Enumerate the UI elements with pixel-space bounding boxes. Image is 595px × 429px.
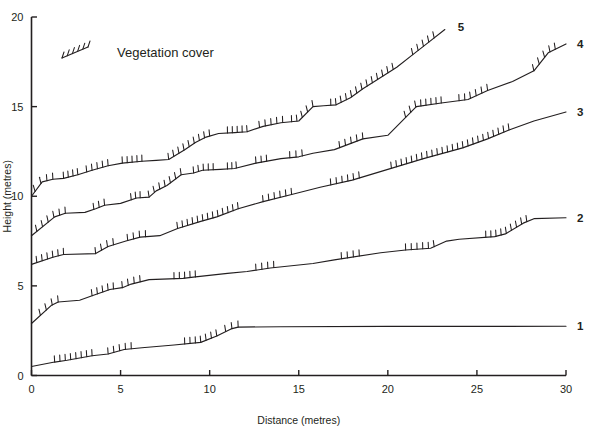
- x-axis-tick-label: 25: [471, 383, 483, 395]
- y-axis-tick-label: 5: [17, 280, 23, 292]
- vegetation-tick: [53, 211, 54, 217]
- series-label-1: 1: [577, 320, 584, 332]
- vegetation-tick: [46, 175, 47, 181]
- vegetation-tick: [457, 143, 458, 149]
- vegetation-tick: [345, 93, 346, 99]
- vegetation-tick: [498, 128, 499, 134]
- vegetation-tick: [33, 185, 35, 191]
- vegetation-tick: [526, 215, 527, 221]
- profile-5: 5: [32, 21, 465, 196]
- vegetation-tick: [433, 32, 434, 38]
- vegetation-tick: [472, 138, 473, 144]
- vegetation-tick: [211, 332, 212, 338]
- series-label-5: 5: [458, 21, 465, 33]
- vegetation-tick: [427, 151, 428, 157]
- legend-vegetation-tick: [88, 41, 90, 47]
- vegetation-tick: [131, 194, 132, 200]
- vegetation-tick: [107, 284, 108, 290]
- vegetation-tick: [135, 192, 136, 198]
- vegetation-tick: [432, 150, 433, 156]
- vegetation-tick: [263, 195, 264, 201]
- vegetation-tick: [280, 191, 281, 197]
- vegetation-tick: [187, 219, 188, 225]
- vegetation-tick: [508, 124, 509, 130]
- vegetation-tick: [198, 165, 199, 171]
- vegetation-tick: [36, 256, 37, 262]
- vegetation-tick: [339, 141, 340, 147]
- axis-titles: Distance (metres)Height (metres): [1, 160, 340, 426]
- profile-3: 3: [32, 106, 584, 264]
- vegetation-tick: [359, 172, 360, 178]
- vegetation-tick: [411, 156, 412, 162]
- vegetation-tick: [192, 218, 193, 224]
- vegetation-tick: [406, 157, 407, 163]
- vegetation-tick: [467, 140, 468, 146]
- figure-canvas: 05101520253005101520 12345 Vegetation co…: [0, 0, 595, 429]
- vegetation-tick: [140, 276, 141, 282]
- vegetation-tick: [222, 208, 223, 214]
- vegetation-tick: [422, 40, 423, 46]
- vegetation-tick: [268, 194, 269, 200]
- vegetation-tick: [212, 212, 213, 218]
- vegetation-tick: [493, 130, 494, 136]
- vegetation-tick: [225, 325, 226, 331]
- vegetation-tick: [47, 216, 48, 222]
- vegetation-tick: [227, 206, 228, 212]
- vegetation-tick: [302, 150, 303, 156]
- x-axis-tick-label: 15: [293, 383, 305, 395]
- vegetation-tick: [376, 73, 377, 79]
- vegetation-tick: [361, 83, 362, 89]
- vegetation-tick: [41, 255, 42, 261]
- vegetation-tick: [306, 106, 308, 112]
- x-axis-tick-label: 0: [28, 383, 34, 395]
- vegetation-tick: [510, 224, 511, 230]
- x-axis-tick-label: 30: [560, 383, 572, 395]
- vegetation-tick: [409, 106, 411, 112]
- vegetation-tick: [168, 153, 169, 159]
- vegetation-tick: [417, 44, 418, 50]
- vegetation-tick: [188, 140, 189, 146]
- legend-label: Vegetation cover: [117, 45, 215, 60]
- profile-line: [32, 112, 567, 264]
- vegetation-tick: [470, 92, 471, 98]
- legend-swatch-line: [62, 47, 88, 58]
- vegetation-tick: [232, 205, 233, 211]
- vegetation-tick: [41, 221, 42, 227]
- vegetation-tick: [475, 90, 476, 96]
- series-label-4: 4: [577, 38, 584, 50]
- vegetation-tick: [97, 163, 98, 169]
- vegetation-tick: [119, 345, 120, 351]
- vegetation-tick: [200, 336, 201, 342]
- vegetation-tick: [335, 99, 336, 105]
- vegetation-tick: [127, 234, 128, 240]
- vegetation-tick: [59, 209, 60, 215]
- vegetation-tick: [205, 334, 206, 340]
- vegetation-tick: [340, 96, 341, 102]
- profile-2: 2: [32, 212, 584, 324]
- legend: Vegetation cover: [62, 41, 215, 60]
- vegetation-tick: [73, 170, 74, 176]
- vegetation-tick: [134, 277, 135, 283]
- vegetation-tick: [452, 144, 453, 150]
- vegetation-tick: [91, 164, 92, 170]
- profile-1: 1: [32, 320, 585, 366]
- vegetation-tick: [51, 299, 52, 305]
- vegetation-tick: [113, 239, 114, 245]
- vegetation-tick: [532, 65, 533, 71]
- vegetation-tick: [259, 121, 260, 127]
- vegetation-tick: [177, 222, 178, 228]
- vegetation-tick: [487, 84, 488, 90]
- y-axis-tick-label: 10: [11, 190, 23, 202]
- vegetation-tick: [91, 290, 92, 296]
- vegetation-tick: [216, 330, 217, 336]
- vegetation-tick: [180, 169, 181, 175]
- vegetation-tick: [416, 154, 417, 160]
- vegetation-tick: [39, 309, 40, 315]
- x-axis-tick-label: 5: [118, 383, 124, 395]
- vegetation-tick: [107, 241, 108, 247]
- vegetation-tick: [488, 132, 489, 138]
- vegetation-tick: [182, 221, 183, 227]
- vegetation-tick: [183, 144, 184, 150]
- vegetation-tick: [392, 63, 393, 69]
- vegetation-tick: [350, 91, 351, 97]
